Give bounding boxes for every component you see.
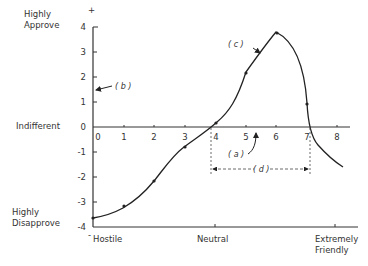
svg-text:2: 2: [81, 72, 86, 82]
label-highly-disapprove: Highly Disapprove: [12, 207, 60, 229]
annotation-c: ( c ): [228, 40, 244, 49]
plus-sign: +: [88, 5, 95, 15]
label-extremely-friendly: Extremely Friendly: [315, 234, 358, 256]
svg-text:4: 4: [213, 132, 218, 142]
label-indifferent: Indifferent: [16, 121, 60, 132]
svg-text:-2: -2: [78, 172, 86, 182]
svg-text:-4: -4: [78, 222, 86, 232]
svg-text:2: 2: [151, 132, 156, 142]
svg-text:1: 1: [81, 97, 86, 107]
svg-text:3: 3: [81, 47, 86, 57]
minus-sign: -: [88, 230, 91, 240]
y-tick-labels: 4 3 2 1 0 -1 -2 -3 -4: [78, 22, 86, 232]
svg-text:-1: -1: [78, 147, 86, 157]
svg-text:-3: -3: [78, 197, 86, 207]
annotation-d: ( d ): [253, 165, 269, 174]
annotation-b: ( b ): [115, 82, 131, 91]
label-neutral: Neutral: [197, 234, 228, 245]
attitude-curve: [93, 32, 343, 218]
svg-text:0: 0: [95, 132, 100, 142]
annotation-a: ( a ): [228, 150, 244, 159]
svg-text:4: 4: [81, 22, 86, 32]
label-hostile: Hostile: [93, 234, 122, 245]
svg-text:1: 1: [121, 132, 126, 142]
label-highly-approve: Highly Approve: [24, 9, 59, 31]
svg-text:3: 3: [182, 132, 187, 142]
svg-text:8: 8: [334, 132, 339, 142]
svg-text:7: 7: [304, 132, 309, 142]
svg-text:0: 0: [81, 122, 86, 132]
x-tick-labels: 0 1 2 3 4 5 6 7 8: [95, 132, 339, 142]
svg-text:6: 6: [273, 132, 278, 142]
svg-text:5: 5: [243, 132, 248, 142]
